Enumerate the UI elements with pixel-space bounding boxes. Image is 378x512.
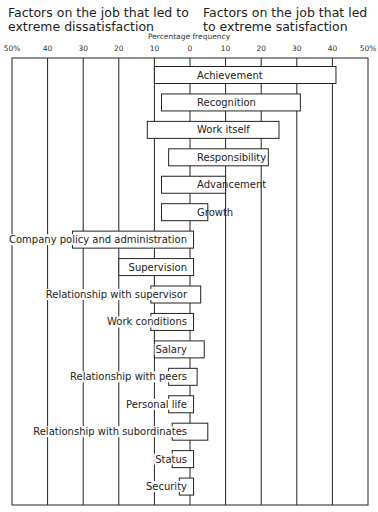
bar-label: Status xyxy=(155,454,187,465)
bar-label: Work conditions xyxy=(107,316,187,327)
bar-label: Salary xyxy=(156,344,187,355)
tick-label: 20 xyxy=(114,44,124,53)
bar-label: Growth xyxy=(197,207,233,218)
bar-label: Advancement xyxy=(197,179,266,190)
tick-label: 10 xyxy=(221,44,231,53)
bar-label: Relationship with peers xyxy=(70,371,187,382)
tick-label: 40 xyxy=(43,44,53,53)
tick-label: 10 xyxy=(150,44,160,53)
bar-label: Company policy and administration xyxy=(9,234,187,245)
tick-label: 20 xyxy=(256,44,266,53)
bar-label: Relationship with subordinates xyxy=(33,426,187,437)
tick-label: 30 xyxy=(78,44,88,53)
tick-label: 0 xyxy=(188,44,193,53)
bar-label: Supervision xyxy=(129,262,187,273)
bar-label: Work itself xyxy=(197,124,250,135)
bar-label: Recognition xyxy=(197,97,256,108)
tick-label: 50% xyxy=(4,44,21,53)
tick-label: 40 xyxy=(328,44,338,53)
bar-label: Achievement xyxy=(197,70,263,81)
bar-label: Responsibility xyxy=(197,152,266,163)
tick-label: 50% xyxy=(360,44,377,53)
bar-label: Relationship with supervisor xyxy=(46,289,188,300)
chart: 50%4030201001020304050%AchievementRecogn… xyxy=(0,0,378,512)
tick-label: 30 xyxy=(292,44,302,53)
bar-label: Personal life xyxy=(126,399,187,410)
bar-label: Security xyxy=(146,481,187,492)
